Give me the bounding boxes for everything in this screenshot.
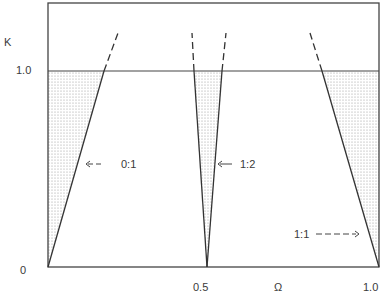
x-axis-label: Ω bbox=[274, 282, 282, 293]
arrow-1-2 bbox=[218, 161, 232, 167]
y-tick-1-0: 1.0 bbox=[16, 65, 31, 76]
tongue-1-2-right-boundary-dashed bbox=[222, 33, 226, 71]
arnold-tongues-diagram bbox=[0, 0, 386, 299]
tongue-1-2-left-boundary-dashed bbox=[192, 33, 194, 71]
y-axis-label: K bbox=[4, 37, 11, 48]
x-tick-0-5: 0.5 bbox=[193, 282, 208, 293]
tongue-1-1-boundary-dashed bbox=[310, 33, 322, 71]
label-1-1: 1:1 bbox=[294, 229, 309, 240]
tongue-0-1-boundary-dashed bbox=[104, 33, 118, 71]
tongue-1-2-region bbox=[194, 71, 222, 267]
arrow-0-1 bbox=[86, 161, 104, 167]
label-1-2: 1:2 bbox=[240, 159, 255, 170]
arrow-1-1 bbox=[316, 231, 359, 237]
label-0-1: 0:1 bbox=[121, 159, 136, 170]
x-tick-1-0: 1.0 bbox=[363, 282, 378, 293]
y-tick-0: 0 bbox=[20, 265, 26, 276]
